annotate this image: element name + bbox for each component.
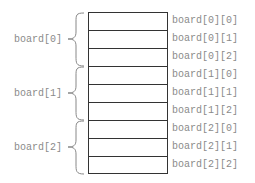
brace-board-2 <box>68 121 84 174</box>
element-label-0-2: board[0][2] <box>172 48 238 66</box>
cell-0-0 <box>89 13 167 31</box>
brace-board-1 <box>68 67 84 120</box>
cell-1-0 <box>89 67 167 85</box>
element-label-2-1: board[2][1] <box>172 138 238 156</box>
cell-2-0 <box>89 121 167 139</box>
brace-board-0 <box>68 13 84 66</box>
cell-2-1 <box>89 139 167 157</box>
element-label-1-2: board[1][2] <box>172 102 238 120</box>
element-label-0-0: board[0][0] <box>172 12 238 30</box>
element-label-2-2: board[2][2] <box>172 156 238 174</box>
element-label-2-0: board[2][0] <box>172 120 238 138</box>
row-label-1: board[1] <box>0 87 62 101</box>
cell-2-2 <box>89 157 167 175</box>
element-label-1-0: board[1][0] <box>172 66 238 84</box>
row-label-2: board[2] <box>0 141 62 155</box>
element-label-0-1: board[0][1] <box>172 30 238 48</box>
cell-0-1 <box>89 31 167 49</box>
cell-1-1 <box>89 85 167 103</box>
element-label-1-1: board[1][1] <box>172 84 238 102</box>
array-cells <box>88 12 168 174</box>
cell-0-2 <box>89 49 167 67</box>
array-memory-diagram: board[0] board[1] board[2] board[0][0] b… <box>0 0 255 183</box>
cell-1-2 <box>89 103 167 121</box>
row-label-0: board[0] <box>0 33 62 47</box>
